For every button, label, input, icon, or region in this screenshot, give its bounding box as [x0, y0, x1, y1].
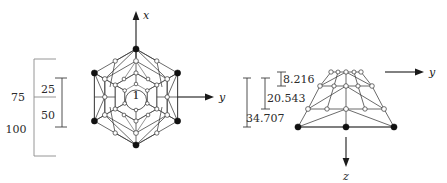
rdiag-1	[346, 109, 394, 127]
node-mid-s	[134, 131, 139, 136]
center-node-label: 1	[133, 89, 140, 102]
node-l1-right	[359, 70, 363, 74]
node-in-nw	[113, 83, 117, 87]
figure-root: 75 100 25 50 x y	[0, 0, 447, 183]
node-l1-center	[344, 70, 348, 74]
ldiag-4	[327, 86, 334, 109]
plan-view-mesh: 1	[91, 46, 180, 148]
rdiag-4	[358, 86, 365, 109]
right-dimension-ladder: 8.216 20.543 34.707	[243, 72, 315, 127]
node-in-ssw	[122, 113, 126, 117]
z-axis-label: z	[342, 170, 349, 183]
node-core-nw	[123, 89, 127, 93]
node-mid-ssw	[113, 131, 117, 135]
mesh-figure-svg: 75 100 25 50 x y	[0, 0, 447, 183]
node-outer-se	[175, 118, 181, 124]
node-outer-ne	[175, 70, 181, 76]
node-l3-center	[344, 107, 349, 112]
node-core-s	[134, 108, 138, 112]
right-diagonals	[346, 72, 394, 127]
node-in-sw	[113, 107, 117, 111]
node-core-se	[146, 102, 150, 106]
node-in-nne	[146, 77, 150, 81]
node-l1-left	[329, 70, 333, 74]
node-base-right	[391, 124, 397, 130]
x-axis-label: x	[143, 9, 150, 22]
node-mid-sw	[102, 113, 107, 118]
y-axis-arrowhead-right	[415, 69, 424, 76]
ldiag-1	[298, 109, 346, 127]
diag-se-mid	[167, 97, 177, 121]
diag-nw-mid	[94, 73, 104, 97]
node-mid-nne	[155, 59, 159, 63]
dim-label-8216: 8.216	[283, 73, 315, 86]
dim-label-25: 25	[41, 83, 55, 96]
node-mid-w	[103, 95, 107, 99]
node-l2-left	[318, 84, 323, 89]
node-in-se	[155, 107, 159, 111]
node-l2-midleft	[332, 84, 336, 88]
node-in-ne	[155, 83, 159, 87]
node-core-sw	[123, 102, 127, 106]
node-in-s	[134, 119, 138, 123]
node-outer-s	[133, 142, 139, 148]
node-mid-nnw	[113, 59, 117, 63]
node-l2-right	[370, 84, 375, 89]
node-base-center	[343, 124, 349, 130]
node-mid-ne	[165, 77, 170, 82]
node-mid-e	[165, 95, 169, 99]
node-l3-right	[382, 107, 387, 112]
node-l3-midleft	[325, 107, 329, 111]
node-l2-midright	[356, 84, 360, 88]
node-core-n	[134, 82, 138, 86]
right-view-axes: y z	[342, 66, 436, 183]
node-outer-n	[133, 46, 139, 52]
node-mid-sse	[155, 131, 159, 135]
z-axis-arrowhead	[343, 158, 350, 167]
y-axis-label-right: y	[428, 66, 436, 79]
node-in-nnw	[122, 77, 126, 81]
node-l2-center	[344, 84, 349, 89]
node-core-ne	[146, 89, 150, 93]
dim-label-50: 50	[41, 109, 55, 122]
diag-sw-mid	[94, 97, 104, 121]
node-mid-se	[165, 113, 170, 118]
diag-ne-mid	[167, 73, 177, 97]
node-mid-n	[134, 59, 139, 64]
node-l1-midright	[352, 70, 356, 74]
node-base-left	[295, 124, 301, 130]
node-l3-midright	[363, 107, 367, 111]
dim-label-100: 100	[6, 123, 27, 136]
y-axis-label-left: y	[218, 91, 226, 104]
node-outer-sw	[91, 118, 97, 124]
dim-label-20543: 20.543	[267, 92, 306, 105]
dim-label-34707: 34.707	[246, 112, 285, 125]
node-l3-left	[306, 107, 311, 112]
dim-label-75: 75	[11, 91, 25, 104]
y-axis-arrowhead-left	[205, 94, 214, 101]
node-outer-nw	[91, 70, 97, 76]
left-dimension-ladder: 75 100 25 50	[6, 59, 68, 156]
node-l1-midleft	[336, 70, 340, 74]
node-mid-nw	[102, 77, 107, 82]
right-flank	[361, 72, 394, 127]
node-in-sse	[146, 113, 150, 117]
node-in-n	[134, 71, 138, 75]
x-axis-arrowhead	[133, 11, 140, 20]
